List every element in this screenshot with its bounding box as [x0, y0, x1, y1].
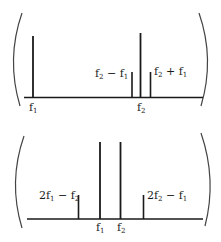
label-f2: f2	[117, 221, 126, 235]
right-parenthesis	[201, 133, 210, 226]
label-f1: f1	[29, 101, 38, 115]
label-2f2-minus-f1: 2f2 − f1	[147, 189, 187, 203]
label-2f1-minus-f2: 2f1 − f2	[39, 189, 79, 203]
spectrum-diagram: f1 f2 f2 − f1 f2 + f1 f1 f2 2f1 − f2 2f2…	[0, 0, 221, 242]
label-f1: f1	[96, 221, 105, 235]
label-f2-plus-f1: f2 + f1	[154, 65, 187, 79]
top-panel: f1 f2 f2 − f1 f2 + f1	[13, 13, 207, 115]
label-f2-minus-f1: f2 − f1	[95, 67, 128, 81]
bottom-panel: f1 f2 2f1 − f2 2f2 − f1	[15, 133, 210, 235]
left-parenthesis	[15, 136, 24, 228]
left-parenthesis	[13, 13, 22, 106]
right-parenthesis	[199, 13, 208, 106]
label-f2: f2	[137, 101, 146, 115]
